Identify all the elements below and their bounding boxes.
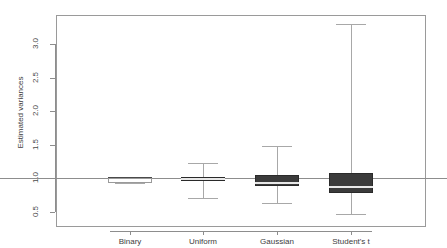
median-line [329,186,373,188]
whisker-lower [351,193,352,213]
median-line [255,182,299,184]
y-axis-line [55,44,56,212]
y-tick-label: 1.5 [31,132,40,156]
x-tick-label: Student's t [332,237,370,246]
y-tick-label: 0.5 [31,199,40,223]
plot-frame [56,15,426,227]
y-tick-mark [50,145,55,146]
whisker-cap-lower [262,203,292,204]
x-tick-mark [130,231,131,235]
whisker-cap-lower [336,214,366,215]
x-tick-mark [351,231,352,235]
y-tick-mark [50,44,55,45]
median-line [108,177,152,178]
whisker-cap-upper [336,24,366,25]
x-axis-line [110,231,372,232]
y-axis-title: Estimated variances [16,53,25,173]
box-iqr [329,173,373,194]
whisker-cap-lower [188,198,218,199]
y-tick-mark [50,212,55,213]
y-tick-label: 2.0 [31,99,40,123]
y-tick-mark [50,78,55,79]
x-tick-label: Uniform [189,237,217,246]
box-iqr [255,175,299,186]
x-tick-mark [277,231,278,235]
whisker-upper [351,24,352,173]
x-tick-label: Gaussian [260,237,294,246]
whisker-cap-upper [188,163,218,164]
whisker-upper [203,163,204,177]
x-tick-label: Binary [119,237,142,246]
whisker-upper [277,146,278,175]
y-tick-label: 2.5 [31,65,40,89]
whisker-cap-upper [262,146,292,147]
box-iqr [108,178,152,183]
y-tick-mark [50,111,55,112]
median-line [181,178,225,180]
boxplot-figure: 0.51.01.52.02.53.0 Estimated variances B… [0,0,447,248]
x-tick-mark [203,231,204,235]
y-tick-label: 3.0 [31,32,40,56]
whisker-lower [203,181,204,198]
whisker-lower [277,186,278,203]
whisker-cap-lower [115,183,145,184]
